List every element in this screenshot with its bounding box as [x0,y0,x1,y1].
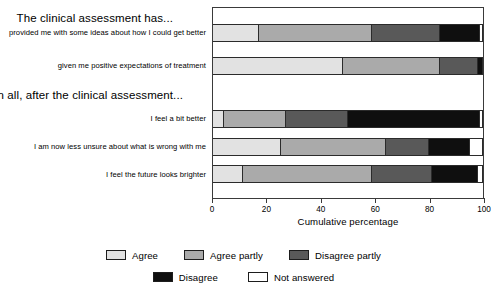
bar-segment [372,24,440,42]
legend-label: Not answered [274,272,334,283]
category-label-1: provided me with some ideas about how I … [9,28,206,37]
x-axis-tick [430,198,431,203]
bar-segment [480,110,483,128]
legend-item[interactable]: Agree [106,250,158,261]
bar-segment [286,110,348,128]
legend-item[interactable]: Agree partly [184,250,263,261]
legend-swatch [106,250,126,260]
legend-item[interactable]: Not answered [248,272,334,283]
bar-segment [213,57,343,75]
group-heading-1: The clinical assessment has... [17,12,173,24]
bar-segment [213,110,224,128]
legend-item[interactable]: Disagree partly [289,250,381,261]
category-label-5: I feel the future looks brighter [106,170,206,179]
x-axis: 020406080100 [212,198,484,199]
x-axis-tick-label: 100 [477,205,491,214]
legend-row-2: DisagreeNot answered [0,266,487,288]
category-label-column: The clinical assessment has... provided … [0,0,211,200]
bar-segment [440,57,478,75]
bar-segment [243,165,373,183]
legend-swatch [289,250,309,260]
category-label-4: I am now less unsure about what is wrong… [34,142,206,151]
x-axis-title: Cumulative percentage [212,216,484,227]
x-axis-tick [266,198,267,203]
x-axis-tick-label: 0 [210,205,215,214]
x-axis-tick [212,198,213,203]
x-axis-tick-label: 80 [425,205,434,214]
bar-segment [432,165,478,183]
bar-segment [259,24,372,42]
stacked-bar [213,24,483,42]
legend-row-1: AgreeAgree partlyDisagree partly [0,244,487,266]
stacked-bar [213,57,483,75]
group-heading-2: All in all, after the clinical assessmen… [0,89,183,101]
legend-label: Agree partly [210,250,263,261]
x-axis-tick [321,198,322,203]
stacked-bar [213,165,483,183]
bar-segment [213,24,259,42]
stacked-bar [213,138,483,156]
bar-segment [478,165,483,183]
x-axis-line [212,198,484,199]
bar-segment [386,138,429,156]
bar-segment [440,24,481,42]
legend-label: Disagree partly [315,250,381,261]
category-label-2: given me positive expectations of treatm… [58,61,206,70]
x-axis-tick [484,198,485,203]
legend-swatch [248,272,268,282]
x-axis-tick-label: 20 [262,205,271,214]
legend-label: Disagree [179,272,218,283]
x-axis-tick-label: 40 [316,205,325,214]
bar-segment [213,165,243,183]
bar-segment [281,138,386,156]
plot-area [212,7,484,199]
bar-segment [343,57,440,75]
bar-segment [478,57,483,75]
x-axis-tick-label: 60 [371,205,380,214]
bar-segment [470,138,484,156]
x-axis-tick [375,198,376,203]
stacked-bars-layer [213,8,483,198]
legend-swatch [184,250,204,260]
bar-segment [429,138,470,156]
stacked-bar [213,110,483,128]
bar-segment [224,110,286,128]
bar-segment [348,110,480,128]
bar-segment [480,24,483,42]
legend-swatch [153,272,173,282]
legend: AgreeAgree partlyDisagree partly Disagre… [0,244,487,288]
legend-item[interactable]: Disagree [153,272,218,283]
bar-segment [372,165,431,183]
category-label-3: I feel a bit better [151,114,206,123]
legend-label: Agree [132,250,158,261]
bar-segment [213,138,281,156]
